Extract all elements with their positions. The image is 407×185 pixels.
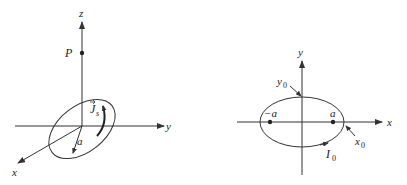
x0-label: x 0: [354, 135, 365, 150]
x-axis-label: x: [11, 166, 17, 178]
left-figure: z P y x a J s: [11, 7, 171, 178]
diagram-canvas: z P y x a J s y x: [0, 0, 407, 185]
svg-text:y: y: [276, 75, 282, 87]
pos-a-label: a: [330, 107, 336, 119]
y-axis-label: y: [165, 120, 171, 132]
i0-label: I 0: [325, 147, 336, 163]
focus-pos-a: [331, 120, 335, 124]
focus-neg-a: [268, 120, 272, 124]
svg-text:x: x: [354, 135, 360, 147]
svg-text:0: 0: [283, 81, 287, 90]
svg-text:0: 0: [332, 154, 336, 163]
point-p-label: P: [64, 46, 73, 60]
x-axis: [18, 126, 82, 163]
x-axis-2d-label: x: [386, 116, 392, 128]
current-density-label: J s: [90, 100, 99, 118]
svg-text:0: 0: [361, 141, 365, 150]
y0-label: y 0: [276, 75, 287, 90]
point-p-dot: [80, 51, 84, 55]
svg-text:s: s: [96, 109, 99, 118]
z-axis-label: z: [78, 7, 84, 19]
x0-pointer: [346, 126, 355, 136]
right-figure: y x −a a y 0 x 0 I 0: [237, 46, 392, 175]
y0-pointer: [290, 86, 301, 96]
svg-text:I: I: [325, 147, 331, 161]
y-axis-2d-label: y: [297, 46, 303, 58]
radius-label: a: [77, 135, 83, 147]
neg-a-label: −a: [264, 107, 277, 119]
